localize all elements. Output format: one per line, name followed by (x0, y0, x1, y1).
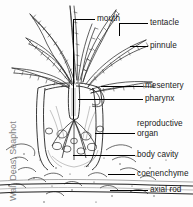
label-axial-rod: axial rod (150, 185, 181, 195)
label-reproductive-line1: reproductive (137, 119, 183, 128)
label-body-cavity: body cavity (137, 150, 179, 160)
label-reproductive-line2: organ (137, 129, 158, 138)
label-mesentery: mesentery (145, 81, 184, 91)
label-pharynx: pharynx (145, 94, 174, 104)
label-reproductive-organ: reproductive organ (137, 119, 183, 138)
watermark-credit: Walt Deas, Seaphot (8, 113, 18, 201)
anatomy-figure: mouth tentacle pinnule mesentery pharynx… (0, 0, 193, 207)
label-coenenchyme: coenenchyme (137, 169, 189, 179)
label-mouth: mouth (97, 14, 120, 24)
label-pinnule: pinnule (150, 41, 177, 51)
label-tentacle: tentacle (150, 18, 179, 28)
